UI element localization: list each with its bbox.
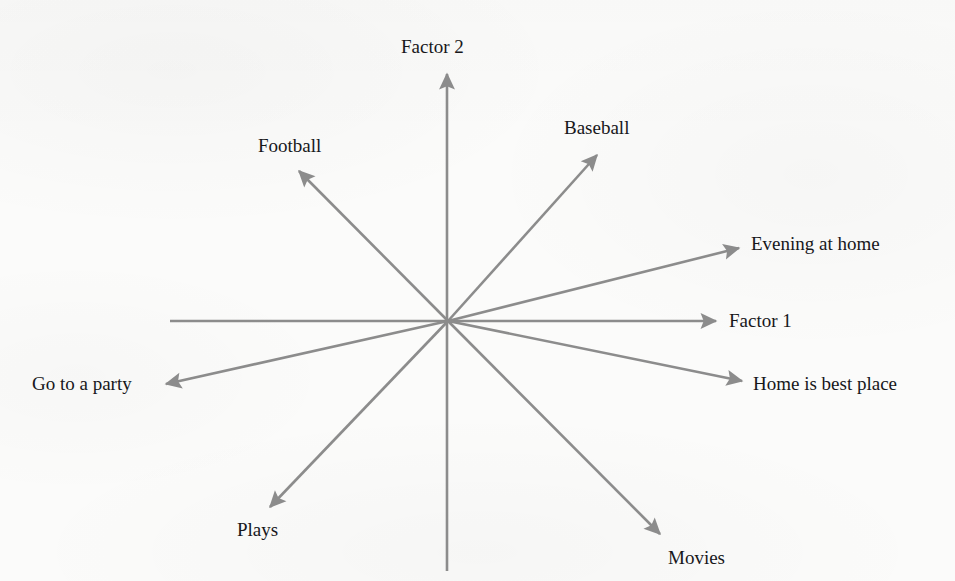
axis-label-factor-2: Factor 2 — [401, 37, 464, 56]
vector-movies — [448, 321, 660, 534]
vector-label-plays: Plays — [237, 520, 278, 539]
figure-canvas: Factor 1 Factor 2 Football Baseball Even… — [0, 0, 955, 581]
vector-go-to-a-party — [166, 321, 448, 384]
vector-plot — [0, 0, 955, 581]
vector-baseball — [448, 155, 597, 321]
vector-home-is-best-place — [448, 321, 742, 381]
vector-label-evening-at-home: Evening at home — [751, 234, 880, 253]
vector-label-go-to-a-party: Go to a party — [32, 374, 132, 393]
vector-plays — [270, 321, 448, 507]
vector-label-football: Football — [258, 136, 321, 155]
vector-label-home-is-best-place: Home is best place — [753, 374, 897, 393]
vector-evening-at-home — [448, 248, 739, 321]
vector-football — [299, 171, 448, 321]
vector-label-baseball: Baseball — [564, 118, 629, 137]
vector-label-movies: Movies — [668, 548, 725, 567]
axis-label-factor-1: Factor 1 — [729, 311, 792, 330]
